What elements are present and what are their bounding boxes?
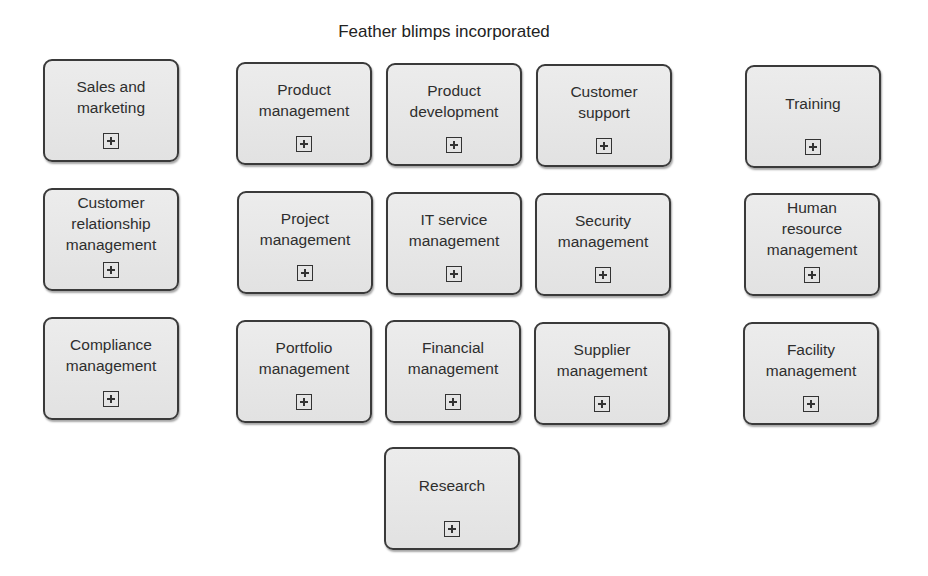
node-label: Sales and marketing [73,61,150,133]
subprocess-product-management[interactable]: Product management [236,62,372,165]
subprocess-security-management[interactable]: Security management [535,193,671,296]
subprocess-supplier-management[interactable]: Supplier management [534,322,670,425]
subprocess-human-resource-management[interactable]: Human resource management [744,193,880,296]
node-label: Customer support [566,66,641,138]
expand-plus-icon[interactable] [596,138,612,154]
subprocess-compliance-management[interactable]: Compliance management [43,317,179,420]
diagram-title: Feather blimps incorporated [0,22,888,42]
subprocess-customer-support[interactable]: Customer support [536,64,672,167]
expand-plus-icon[interactable] [446,266,462,282]
subprocess-financial-management[interactable]: Financial management [385,320,521,423]
node-label: Project management [256,193,354,265]
expand-plus-icon[interactable] [296,136,312,152]
node-label: Training [781,67,844,139]
node-label: IT service management [405,194,503,266]
expand-plus-icon[interactable] [803,396,819,412]
subprocess-facility-management[interactable]: Facility management [743,322,879,425]
subprocess-training[interactable]: Training [745,65,881,168]
node-label: Research [415,449,489,521]
node-label: Human resource management [763,195,861,267]
expand-plus-icon[interactable] [297,265,313,281]
subprocess-customer-relationship-management[interactable]: Customer relationship management [43,188,179,291]
node-label: Product development [406,65,503,137]
node-label: Supplier management [553,324,651,396]
expand-plus-icon[interactable] [296,394,312,410]
expand-plus-icon[interactable] [103,262,119,278]
subprocess-portfolio-management[interactable]: Portfolio management [236,320,372,423]
node-label: Customer relationship management [62,190,160,262]
node-label: Product management [255,64,353,136]
node-label: Compliance management [62,319,160,391]
expand-plus-icon[interactable] [804,267,820,283]
expand-plus-icon[interactable] [446,137,462,153]
expand-plus-icon[interactable] [103,391,119,407]
expand-plus-icon[interactable] [445,394,461,410]
expand-plus-icon[interactable] [805,139,821,155]
subprocess-product-development[interactable]: Product development [386,63,522,166]
subprocess-it-service-management[interactable]: IT service management [386,192,522,295]
node-label: Financial management [404,322,502,394]
node-label: Portfolio management [255,322,353,394]
expand-plus-icon[interactable] [594,396,610,412]
expand-plus-icon[interactable] [595,267,611,283]
subprocess-research[interactable]: Research [384,447,520,550]
node-label: Security management [554,195,652,267]
subprocess-project-management[interactable]: Project management [237,191,373,294]
node-label: Facility management [762,324,860,396]
subprocess-sales-and-marketing[interactable]: Sales and marketing [43,59,179,162]
expand-plus-icon[interactable] [103,133,119,149]
expand-plus-icon[interactable] [444,521,460,537]
